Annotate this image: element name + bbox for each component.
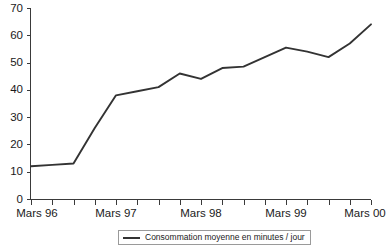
chart-legend: Consommation moyenne en minutes / jour bbox=[118, 230, 311, 245]
x-tick-label: Mars 99 bbox=[265, 207, 307, 219]
y-tick-label: 20 bbox=[10, 138, 23, 150]
y-tick-label: 30 bbox=[10, 111, 23, 123]
y-tick-label: 0 bbox=[17, 193, 23, 205]
x-tick-label: Mars 96 bbox=[16, 207, 58, 219]
legend-line-swatch bbox=[123, 237, 140, 239]
x-tick-label: Mars 00 bbox=[344, 207, 386, 219]
x-tick-label: Mars 97 bbox=[95, 207, 137, 219]
y-tick-label: 50 bbox=[10, 56, 23, 68]
y-tick-label: 40 bbox=[10, 83, 23, 95]
chart-plot-area: 010203040506070Mars 96Mars 97Mars 98Mars… bbox=[0, 0, 390, 250]
x-tick-label: Mars 98 bbox=[180, 207, 222, 219]
y-tick-label: 60 bbox=[10, 29, 23, 41]
data-series-line bbox=[31, 24, 371, 166]
y-tick-label: 10 bbox=[10, 165, 23, 177]
y-tick-label: 70 bbox=[10, 2, 23, 14]
legend-series-label: Consommation moyenne en minutes / jour bbox=[145, 233, 305, 242]
line-chart: 010203040506070Mars 96Mars 97Mars 98Mars… bbox=[0, 0, 390, 250]
